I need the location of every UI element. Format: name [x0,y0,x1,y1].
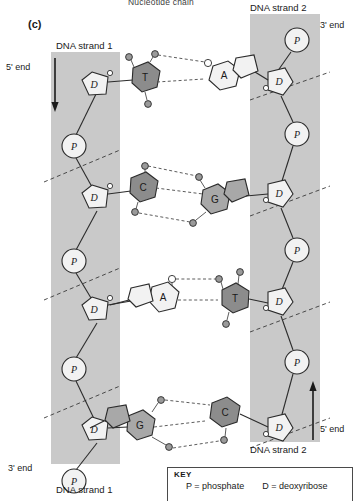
label-dna-strand-2-bottom: DNA strand 2 [250,444,307,455]
strand2-phosphate-4: P [285,350,309,374]
label-5-prime-end-right: 5' end [320,424,344,434]
label-dna-strand-1-bottom: DNA strand 1 [56,484,113,495]
svg-text:D: D [274,296,283,307]
label-3-prime-end-right: 3' end [320,20,344,30]
strand2-phosphate-1: P [285,28,309,52]
svg-text:P: P [70,364,77,375]
svg-text:C: C [221,407,228,418]
key-entry-phosphate: P = phosphate [186,481,244,491]
base-pair-1-T-A: T A [108,51,268,108]
svg-text:G: G [136,420,144,431]
label-dna-strand-1-top: DNA strand 1 [56,40,113,51]
svg-text:D: D [274,422,283,433]
svg-text:P: P [293,35,300,46]
base-pair-3-A-T: A T [108,269,268,328]
strand1-phosphate-3: P [62,357,86,381]
svg-text:P: P [293,357,300,368]
base-pair-2-C-G: C G [108,163,268,227]
svg-text:D: D [274,188,283,199]
label-5-prime-end-left: 5' end [6,62,30,72]
label-dna-strand-2-top: DNA strand 2 [250,2,307,13]
svg-text:P: P [70,256,77,267]
figure-title-clipped: Nucleotide chain [128,0,194,7]
label-3-prime-end-left: 3' end [8,463,32,473]
strand1-phosphate-1: P [62,134,86,158]
svg-text:D: D [274,76,283,87]
svg-text:P: P [293,129,300,140]
strand1-phosphate-2: P [62,249,86,273]
key-entry-deoxyribose: D = deoxyribose [262,481,327,491]
panel-letter: (c) [28,18,41,30]
svg-text:A: A [221,70,228,81]
strand2-phosphate-2: P [285,122,309,146]
svg-text:D: D [89,79,98,90]
svg-text:P: P [293,245,300,256]
svg-text:T: T [232,293,238,304]
svg-text:T: T [142,72,148,83]
svg-text:P: P [70,141,77,152]
svg-text:C: C [139,182,146,193]
svg-text:D: D [89,192,98,203]
svg-text:D: D [89,304,98,315]
svg-text:G: G [211,194,219,205]
svg-text:A: A [160,292,167,303]
strand2-phosphate-3: P [285,238,309,262]
svg-text:D: D [89,424,98,435]
key-title: KEY [174,470,192,479]
key-row-1: P = phosphateD = deoxyribose [186,481,327,491]
